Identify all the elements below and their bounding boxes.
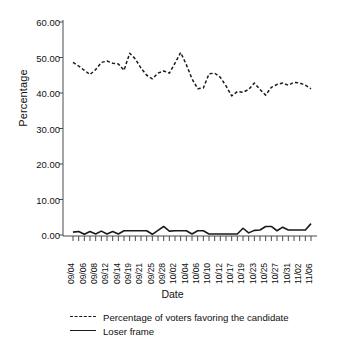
x-tick-label: 09/12 — [100, 263, 110, 284]
legend-label-voters: Percentage of voters favoring the candid… — [103, 312, 289, 323]
x-tick-label: 10/06 — [191, 263, 201, 284]
x-tick-label: 10/17 — [225, 263, 235, 284]
x-tick-label: 10/25 — [259, 263, 269, 284]
x-tick-label: 10/04 — [180, 263, 190, 284]
x-tick-label: 09/04 — [66, 263, 76, 284]
x-tick-label: 10/02 — [168, 263, 178, 284]
x-tick-label: 10/23 — [248, 263, 258, 284]
legend-label-loser-frame: Loser frame — [103, 326, 154, 337]
x-tick-label: 09/08 — [89, 263, 99, 284]
x-tick-label: 10/31 — [282, 263, 292, 284]
x-axis-title: Date — [0, 288, 345, 300]
x-tick-label: 10/19 — [236, 263, 246, 284]
x-tick-label: 09/14 — [112, 263, 122, 284]
legend-item-voters: Percentage of voters favoring the candid… — [70, 310, 289, 324]
chart-legend: Percentage of voters favoring the candid… — [70, 310, 289, 338]
x-tick-label: 11/06 — [304, 264, 314, 284]
x-tick-label: 09/21 — [134, 263, 144, 284]
x-tick-label: 10/10 — [202, 263, 212, 284]
x-tick-label: 09/06 — [78, 263, 88, 284]
x-tick-label: 10/27 — [270, 263, 280, 284]
x-tick-label: 10/12 — [214, 263, 224, 284]
x-tick-label: 09/19 — [123, 263, 133, 284]
x-tick-label: 09/28 — [157, 263, 167, 284]
legend-item-loser-frame: Loser frame — [70, 324, 289, 338]
x-tick-label: 09/25 — [146, 263, 156, 284]
line-chart: Percentage 0.0010.0020.0030.0040.0050.00… — [0, 0, 345, 347]
x-tick-label: 11/02 — [293, 264, 303, 284]
